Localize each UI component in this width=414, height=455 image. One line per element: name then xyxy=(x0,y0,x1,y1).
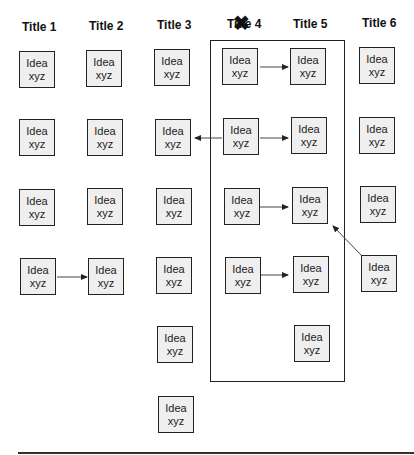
idea-box: Ideaxyz xyxy=(156,257,192,294)
idea-box: Ideaxyz xyxy=(225,257,261,294)
idea-box: Ideaxyz xyxy=(19,51,55,88)
idea-box: Ideaxyz xyxy=(88,258,124,295)
idea-box: Ideaxyz xyxy=(294,325,330,362)
idea-box: Ideaxyz xyxy=(155,119,191,156)
idea-box: Ideaxyz xyxy=(224,188,260,225)
idea-box: Ideaxyz xyxy=(359,117,395,154)
idea-box: Ideaxyz xyxy=(361,255,397,292)
idea-box: Ideaxyz xyxy=(360,186,396,223)
idea-box: Ideaxyz xyxy=(19,119,55,156)
idea-box: Ideaxyz xyxy=(223,118,259,155)
idea-box: Ideaxyz xyxy=(86,50,122,87)
idea-box: Ideaxyz xyxy=(359,47,395,84)
bottom-rule xyxy=(18,452,414,454)
idea-box: Ideaxyz xyxy=(290,48,326,85)
idea-box: Ideaxyz xyxy=(20,258,56,295)
idea-box: Ideaxyz xyxy=(291,117,327,154)
idea-box: Ideaxyz xyxy=(157,326,193,363)
idea-box: Ideaxyz xyxy=(87,188,123,225)
idea-box: Ideaxyz xyxy=(158,396,194,433)
idea-box: Ideaxyz xyxy=(19,189,55,226)
idea-box: Ideaxyz xyxy=(293,256,329,293)
idea-box: Ideaxyz xyxy=(292,187,328,224)
idea-box: Ideaxyz xyxy=(87,119,123,156)
idea-box: Ideaxyz xyxy=(222,48,258,85)
arrows-layer xyxy=(0,0,414,455)
idea-box: Ideaxyz xyxy=(156,188,192,225)
idea-box: Ideaxyz xyxy=(154,49,190,86)
